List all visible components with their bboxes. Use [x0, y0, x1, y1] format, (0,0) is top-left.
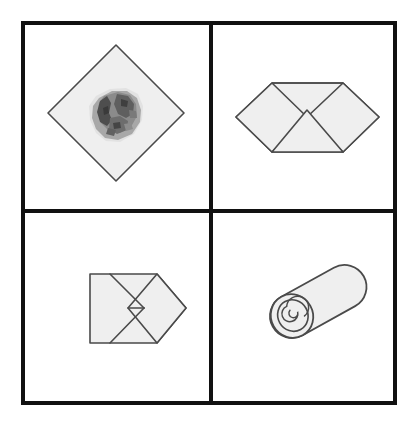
figure-canvas: Cloth folding and rolling sequence Four …	[0, 0, 417, 429]
stain-speck-c	[113, 122, 121, 129]
four-panel-folding-diagram	[0, 0, 417, 429]
background	[0, 0, 417, 429]
stain-speck-d	[129, 110, 137, 118]
